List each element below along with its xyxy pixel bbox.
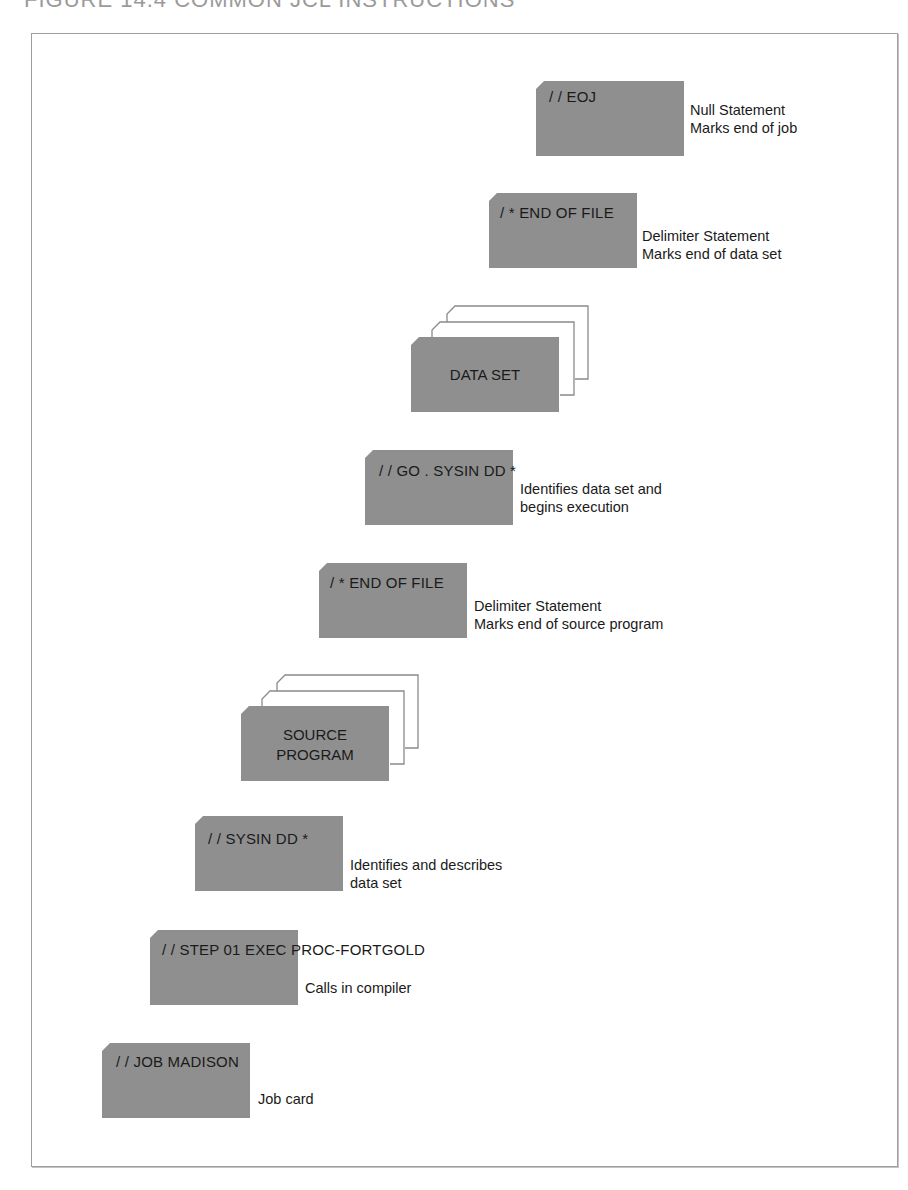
end-of-file-source-code: / * END OF FILE xyxy=(330,574,444,591)
step-exec-code: / / STEP 01 EXEC PROC-FORTGOLD xyxy=(162,941,425,958)
job-code: / / JOB MADISON xyxy=(116,1053,239,1070)
figure-title: FIGURE 14.4 COMMON JCL INSTRUCTIONS xyxy=(24,0,515,13)
source-program-label-line1: SOURCE xyxy=(241,725,389,745)
go-sysin-desc-line2: begins execution xyxy=(520,498,629,516)
end-of-file-data-desc-line1: Delimiter Statement xyxy=(642,227,769,245)
eoj-desc-line1: Null Statement xyxy=(690,101,785,119)
go-sysin-code: / / GO . SYSIN DD * xyxy=(379,462,516,479)
sysin-desc-line2: data set xyxy=(350,874,402,892)
sysin-desc-line1: Identifies and describes xyxy=(350,856,502,874)
sysin-code: / / SYSIN DD * xyxy=(208,830,308,847)
go-sysin-desc-line1: Identifies data set and xyxy=(520,480,662,498)
end-of-file-data-code: / * END OF FILE xyxy=(500,204,614,221)
end-of-file-source-desc-line2: Marks end of source program xyxy=(474,615,663,633)
data-set-label: DATA SET xyxy=(411,365,559,385)
step-exec-desc-line1: Calls in compiler xyxy=(305,979,411,997)
end-of-file-source-desc-line1: Delimiter Statement xyxy=(474,597,601,615)
eoj-code: / / EOJ xyxy=(549,88,596,105)
eoj-desc-line2: Marks end of job xyxy=(690,119,797,137)
job-desc-line1: Job card xyxy=(258,1090,314,1108)
sysin-card xyxy=(195,816,343,891)
end-of-file-data-desc-line2: Marks end of data set xyxy=(642,245,781,263)
source-program-label-line2: PROGRAM xyxy=(241,745,389,765)
